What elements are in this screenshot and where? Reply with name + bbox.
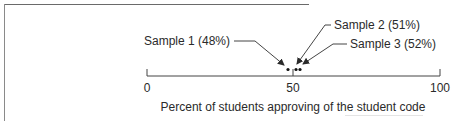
leader-arrow-sample-1 [234,41,284,65]
annotation-sample-3: Sample 3 (52%) [350,37,436,51]
data-point-sample-1 [286,68,289,71]
x-axis [147,69,440,76]
leader-arrow-sample-2 [297,25,331,64]
data-point-sample-3 [298,68,301,71]
annotation-sample-2: Sample 2 (51%) [334,18,420,32]
tick-label-50: 50 [286,81,300,95]
annotation-sample-1: Sample 1 (48%) [144,34,230,48]
x-axis-label: Percent of students approving of the stu… [161,100,426,114]
number-line-chart: 0 50 100 Percent of students approving o… [0,0,472,121]
tick-label-0: 0 [144,81,151,95]
tick-label-100: 100 [430,81,450,95]
data-point-sample-2 [294,68,297,71]
